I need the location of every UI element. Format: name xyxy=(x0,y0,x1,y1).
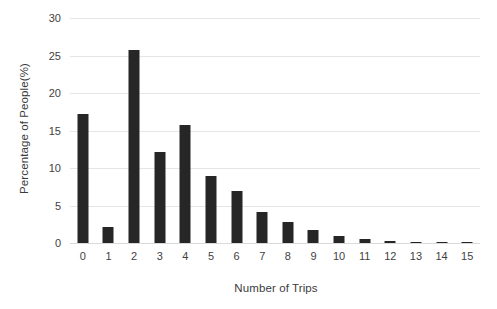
bar xyxy=(129,50,140,243)
bar xyxy=(359,239,370,243)
x-axis-tick-label: 4 xyxy=(172,251,198,262)
y-axis-tick-label: 5 xyxy=(19,200,61,211)
gridline xyxy=(70,18,480,19)
x-axis-tick-label: 6 xyxy=(224,251,250,262)
bar xyxy=(257,212,268,244)
x-axis-tick-label: 7 xyxy=(249,251,275,262)
bar xyxy=(103,227,114,244)
y-axis-tick-label: 25 xyxy=(19,50,61,61)
plot-area: 051015202530 0123456789101112131415 xyxy=(70,18,480,243)
x-axis-tick-label: 8 xyxy=(275,251,301,262)
bar xyxy=(205,176,216,243)
bar xyxy=(308,230,319,243)
x-axis-tick-label: 9 xyxy=(300,251,326,262)
bar xyxy=(282,222,293,243)
bar xyxy=(436,242,447,243)
x-axis-tick-label: 15 xyxy=(454,251,480,262)
x-axis-title: Number of Trips xyxy=(70,282,482,294)
x-axis-tick-label: 13 xyxy=(403,251,429,262)
y-axis-tick-label: 0 xyxy=(19,238,61,249)
x-axis-tick-label: 5 xyxy=(198,251,224,262)
bar-chart: Percentage of People(%) 051015202530 012… xyxy=(0,0,497,309)
bar xyxy=(180,125,191,243)
x-axis-tick-label: 12 xyxy=(377,251,403,262)
x-axis-tick-label: 0 xyxy=(70,251,96,262)
y-axis-tick-label: 10 xyxy=(19,163,61,174)
bar xyxy=(385,241,396,243)
bar xyxy=(334,236,345,244)
bar xyxy=(77,114,88,243)
y-axis-tick-label: 20 xyxy=(19,88,61,99)
bar xyxy=(462,242,473,243)
x-axis-tick-label: 11 xyxy=(352,251,378,262)
x-axis-tick-label: 14 xyxy=(429,251,455,262)
x-axis-tick-label: 1 xyxy=(95,251,121,262)
x-axis-tick-label: 2 xyxy=(121,251,147,262)
x-axis-tick-label: 10 xyxy=(326,251,352,262)
bar xyxy=(410,242,421,244)
y-axis-tick-label: 15 xyxy=(19,125,61,136)
bar xyxy=(231,191,242,243)
x-axis-tick-label: 3 xyxy=(147,251,173,262)
y-axis-tick-label: 30 xyxy=(19,13,61,24)
gridline xyxy=(70,243,480,244)
bar xyxy=(154,152,165,243)
